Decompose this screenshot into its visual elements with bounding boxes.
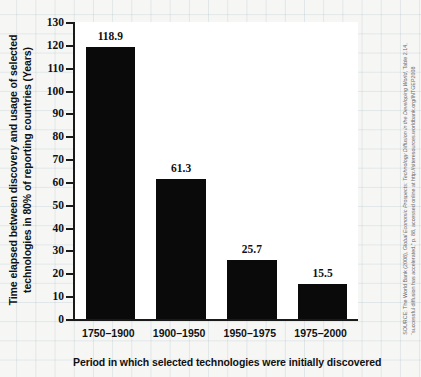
y-axis-tick xyxy=(66,136,74,138)
bar-value-label: 15.5 xyxy=(313,267,333,279)
x-axis-title: Period in which selected technologies we… xyxy=(73,356,356,368)
y-axis-tick xyxy=(66,45,74,47)
plot-inner: 0102030405060708090100110120130118.961.3… xyxy=(75,22,358,319)
y-axis-tick-label: 120 xyxy=(47,39,64,51)
plot-area: 0102030405060708090100110120130118.961.3… xyxy=(73,22,358,321)
y-axis-tick-label: 0 xyxy=(58,313,64,325)
source-citation: SOURCE: The World Bank (2008), Global Ec… xyxy=(397,0,421,377)
y-axis-tick-label: 100 xyxy=(47,85,64,97)
y-axis-tick xyxy=(66,113,74,115)
bar-chart-figure: Time elapsed between discovery and usage… xyxy=(0,0,421,377)
x-axis-category-label: 1950–1975 xyxy=(224,327,277,339)
y-axis-tick-label: 90 xyxy=(53,107,65,119)
y-axis-tick-label: 20 xyxy=(53,267,65,279)
bar-value-label: 25.7 xyxy=(242,243,262,255)
y-axis-tick-label: 80 xyxy=(53,130,65,142)
y-axis-tick-label: 30 xyxy=(53,244,65,256)
bar-value-label: 61.3 xyxy=(171,162,191,174)
y-axis-tick xyxy=(66,273,74,275)
y-axis-tick xyxy=(66,91,74,93)
x-axis-category-label: 1750–1900 xyxy=(82,327,135,339)
y-axis-tick-label: 70 xyxy=(53,153,65,165)
bar xyxy=(86,47,136,319)
y-axis-tick xyxy=(66,182,74,184)
y-axis-tick xyxy=(66,205,74,207)
source-suffix: , Table 2.14, xyxy=(402,43,408,72)
x-axis-category-label: 1975–2000 xyxy=(294,327,347,339)
y-axis-tick-label: 50 xyxy=(53,199,65,211)
y-axis-title: Time elapsed between discovery and usage… xyxy=(0,0,40,340)
bar xyxy=(298,284,348,319)
y-axis-tick-label: 110 xyxy=(47,62,64,74)
y-axis-tick xyxy=(66,228,74,230)
bar xyxy=(227,260,277,319)
y-axis-tick-label: 40 xyxy=(53,222,65,234)
source-prefix: SOURCE: The World Bank (2008), xyxy=(402,250,408,335)
y-axis-tick-label: 60 xyxy=(53,176,65,188)
y-axis-title-line-2: technologies in 80% of reporting countri… xyxy=(20,35,34,306)
bar xyxy=(156,179,206,319)
y-axis-tick xyxy=(66,296,74,298)
y-axis-tick xyxy=(66,68,74,70)
source-line-1: SOURCE: The World Bank (2008), Global Ec… xyxy=(401,43,409,335)
source-title-italic: Global Economic Prospects: Technology Di… xyxy=(402,72,408,250)
bar-value-label: 118.9 xyxy=(98,30,123,42)
y-axis-tick xyxy=(66,319,74,321)
y-axis-tick-label: 130 xyxy=(47,16,64,28)
x-axis-category-label: 1900–1950 xyxy=(153,327,206,339)
y-axis-title-line-1: Time elapsed between discovery and usage… xyxy=(7,35,19,306)
y-axis-tick xyxy=(66,22,74,24)
y-axis-tick-label: 10 xyxy=(53,290,65,302)
y-axis-tick xyxy=(66,159,74,161)
y-axis-tick xyxy=(66,250,74,252)
source-line-2: “successful diffusion has accelerated,” … xyxy=(409,43,417,335)
